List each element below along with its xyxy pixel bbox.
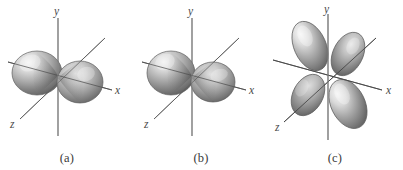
orbital-lobe-right-b [191, 62, 235, 102]
x-axis-label-a: x [114, 84, 121, 96]
x-axis-label-c: x [385, 84, 392, 96]
orbital-panel-b: y x z (b) [134, 0, 268, 170]
y-axis-label-a: y [53, 5, 60, 18]
panel-caption-a: (a) [0, 152, 134, 165]
x-axis-label-b: x [248, 84, 255, 96]
z-axis-label-a: z [9, 118, 15, 130]
panel-caption-b: (b) [134, 152, 268, 165]
z-axis-label-b: z [143, 118, 149, 130]
orbital-diagram-a: y x z [0, 0, 134, 170]
orbital-lobe-lower-right-c [321, 73, 374, 135]
orbital-figure: y x z (a) [0, 0, 403, 170]
orbital-lobe-right-a [57, 61, 103, 103]
y-axis-label-c: y [323, 3, 330, 16]
orbital-lobe-left-b [147, 51, 195, 95]
y-axis-label-b: y [187, 5, 194, 18]
orbital-panel-a: y x z (a) [0, 0, 134, 170]
orbital-diagram-c: y x z [268, 0, 403, 170]
z-axis-label-c: z [274, 121, 280, 133]
panel-caption-c: (c) [268, 152, 402, 165]
orbital-diagram-b: y x z [134, 0, 268, 170]
orbital-lobe-left-a [12, 51, 62, 95]
orbital-panel-c: y x z (c) [268, 0, 402, 170]
orbital-lobe-upper-right-c [324, 27, 371, 81]
orbital-lobe-lower-left-c [284, 69, 331, 122]
